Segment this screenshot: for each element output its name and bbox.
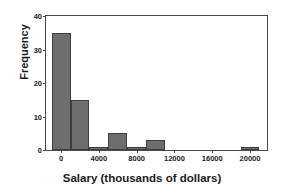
x-tick-mark [212, 150, 213, 153]
y-tick-mark [43, 16, 46, 17]
y-tick-mark [43, 117, 46, 118]
bar-series [46, 16, 267, 150]
histogram-figure: Frequency 010203040 04000800012000160002… [0, 0, 284, 194]
x-tick-label: 12000 [164, 154, 185, 163]
x-tick-mark [250, 150, 251, 153]
x-axis-label: Salary (thousands of dollars) [0, 172, 284, 184]
histogram-bar [108, 133, 127, 150]
x-tick-mark [61, 150, 62, 153]
x-tick-mark [137, 150, 138, 153]
y-tick-mark [43, 83, 46, 84]
histogram-bar [71, 100, 90, 150]
x-tick-label: 8000 [128, 154, 145, 163]
x-tick-label: 4000 [91, 154, 108, 163]
x-tick-label: 0 [59, 154, 63, 163]
x-tick-label: 20000 [240, 154, 261, 163]
x-tick-mark [174, 150, 175, 153]
y-tick-mark [43, 150, 46, 151]
histogram-bar [52, 33, 71, 150]
y-tick-mark [43, 50, 46, 51]
x-tick-label: 16000 [202, 154, 223, 163]
x-tick-mark [99, 150, 100, 153]
histogram-bar [146, 140, 165, 150]
plot-area: 010203040 040008000120001600020000 [45, 15, 268, 151]
